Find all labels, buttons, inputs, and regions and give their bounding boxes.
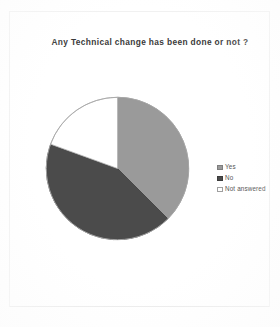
legend-item-yes[interactable]: Yes bbox=[217, 162, 275, 173]
legend-item-no[interactable]: No bbox=[217, 173, 275, 184]
chart-container: Any Technical change has been done or no… bbox=[9, 11, 270, 307]
chart-legend: Yes No Not answered bbox=[217, 162, 275, 195]
legend-swatch-not-answered bbox=[217, 187, 223, 193]
legend-label-not-answered: Not answered bbox=[225, 186, 266, 192]
legend-swatch-yes bbox=[217, 165, 223, 171]
legend-swatch-no bbox=[217, 176, 223, 182]
pie-chart bbox=[45, 96, 190, 241]
legend-label-yes: Yes bbox=[225, 164, 236, 170]
pie-chart-svg bbox=[45, 96, 190, 241]
legend-item-not-answered[interactable]: Not answered bbox=[217, 184, 275, 195]
legend-label-no: No bbox=[225, 175, 233, 181]
chart-title: Any Technical change has been done or no… bbox=[7, 38, 280, 47]
pie-slices bbox=[46, 97, 188, 239]
